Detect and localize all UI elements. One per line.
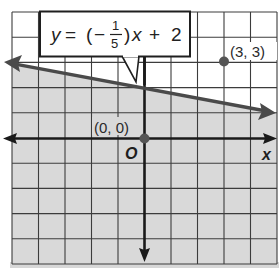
origin-label: O (125, 145, 138, 162)
point-3-3 (219, 57, 229, 67)
point-origin (140, 134, 150, 144)
x-axis-left-arrow-icon (3, 133, 17, 144)
coordinate-graph: y = ( − 1 5 ) x + 2 (0, 0) (3, 3) O x (0, 0, 279, 272)
equation-lhs: y (49, 24, 62, 45)
point-3-3-label: (3, 3) (230, 43, 265, 60)
equation-frac-numerator: 1 (112, 18, 119, 33)
equation-frac-denominator: 5 (111, 36, 118, 51)
origin-point-label: (0, 0) (94, 119, 129, 136)
equation-minus: − (94, 24, 105, 45)
equation-plus: + (149, 24, 160, 45)
equation-close-paren: ) (124, 24, 130, 45)
equation-constant: 2 (171, 24, 182, 45)
equation-open-paren: ( (86, 24, 93, 45)
x-axis-label: x (261, 146, 272, 163)
equation-equals: = (65, 24, 76, 45)
equation-var: x (131, 24, 143, 45)
